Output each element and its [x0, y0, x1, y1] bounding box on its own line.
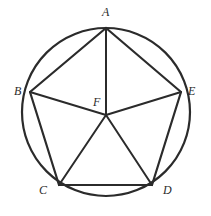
point-label-b: B — [14, 85, 21, 97]
segment-layer — [30, 28, 181, 185]
point-label-f: F — [93, 96, 100, 108]
radius-FC — [59, 115, 106, 185]
geometry-canvas — [0, 0, 211, 216]
point-label-a: A — [102, 6, 109, 18]
radius-FE — [106, 92, 181, 115]
point-label-c: C — [39, 184, 47, 196]
side-BC — [30, 92, 59, 185]
radius-FD — [106, 115, 152, 185]
geometry-figure: ABCDEF — [0, 0, 211, 216]
point-label-e: E — [188, 85, 195, 97]
point-label-d: D — [163, 184, 172, 196]
